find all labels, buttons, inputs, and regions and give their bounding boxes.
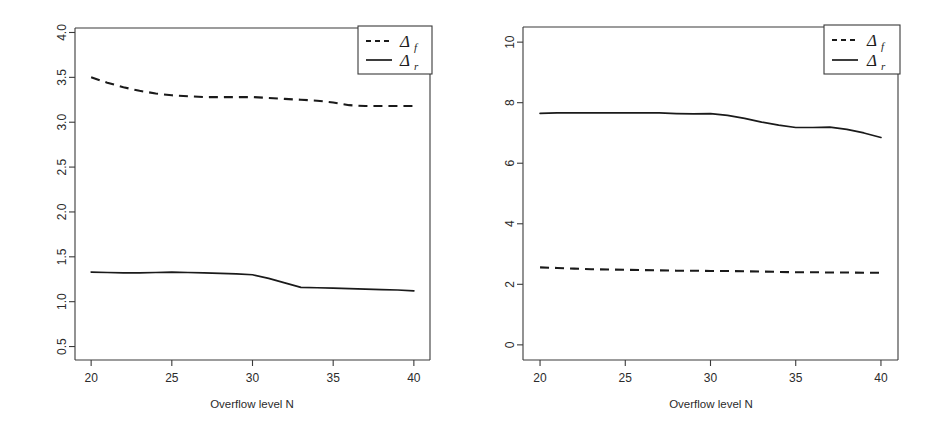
legend-subscript-r: r: [881, 60, 886, 72]
chart-panel-left: 0.51.01.52.02.53.03.54.0 2025303540 Δ f …: [0, 0, 464, 440]
left-y-tick-label: 2.5: [55, 158, 69, 175]
left-y-tick-label: 2.0: [55, 203, 69, 220]
left-series-delta_f: [91, 77, 414, 106]
legend-subscript-r: r: [414, 60, 419, 72]
legend-label-delta-f: Δ: [866, 31, 877, 50]
right-y-tick-label: 2: [503, 281, 517, 288]
left-legend: Δ f Δ r: [358, 26, 432, 74]
right-series-group: [540, 113, 881, 273]
left-series-group: [91, 77, 414, 291]
right-y-tick-label: 8: [503, 99, 517, 106]
left-x-tick-label: 35: [327, 371, 341, 385]
right-x-axis: 2025303540: [523, 360, 898, 385]
right-y-tick-label: 10: [503, 35, 517, 49]
right-y-axis: 0246810: [503, 27, 523, 360]
left-y-tick-label: 1.0: [55, 293, 69, 310]
left-y-tick-label: 0.5: [55, 338, 69, 355]
right-series-delta_f: [540, 267, 881, 272]
left-x-axis: 2025303540: [75, 360, 430, 385]
right-x-tick-label: 30: [704, 371, 718, 385]
left-plot-svg: 0.51.01.52.02.53.03.54.0 2025303540 Δ f …: [0, 0, 464, 440]
left-y-tick-label: 3.5: [55, 69, 69, 86]
right-x-tick-label: 25: [619, 371, 633, 385]
chart-panel-right: 0246810 2025303540 Δ f Δ r Overflow leve…: [464, 0, 928, 440]
figure-container: 0.51.01.52.02.53.03.54.0 2025303540 Δ f …: [0, 0, 928, 440]
right-plot-svg: 0246810 2025303540 Δ f Δ r Overflow leve…: [464, 0, 928, 440]
right-plot-frame: [523, 27, 898, 360]
right-y-tick-label: 0: [503, 341, 517, 348]
left-x-ticks: 2025303540: [84, 360, 420, 385]
left-x-tick-label: 30: [246, 371, 260, 385]
left-y-tick-label: 1.5: [55, 248, 69, 265]
left-y-tick-label: 4.0: [55, 24, 69, 41]
right-xaxis-title: Overflow level N: [669, 398, 753, 410]
left-plot-frame: [75, 28, 430, 360]
left-xaxis-title: Overflow level N: [210, 398, 294, 410]
right-x-tick-label: 20: [533, 371, 547, 385]
right-y-tick-label: 6: [503, 160, 517, 167]
right-series-delta_r: [540, 113, 881, 138]
right-x-tick-label: 40: [874, 371, 888, 385]
right-x-ticks: 2025303540: [533, 360, 888, 385]
left-x-tick-label: 40: [407, 371, 421, 385]
left-x-tick-label: 20: [84, 371, 98, 385]
left-y-ticks: 0.51.01.52.02.53.03.54.0: [55, 24, 75, 355]
left-y-tick-label: 3.0: [55, 114, 69, 131]
right-x-tick-label: 35: [789, 371, 803, 385]
right-legend: Δ f Δ r: [824, 25, 900, 74]
left-y-axis: 0.51.01.52.02.53.03.54.0: [55, 24, 75, 360]
left-series-delta_r: [91, 272, 414, 291]
right-y-ticks: 0246810: [503, 35, 523, 348]
left-x-tick-label: 25: [165, 371, 179, 385]
legend-label-delta-f: Δ: [399, 32, 410, 51]
right-y-tick-label: 4: [503, 220, 517, 227]
legend-label-delta-r: Δ: [866, 51, 877, 70]
legend-label-delta-r: Δ: [399, 51, 410, 70]
